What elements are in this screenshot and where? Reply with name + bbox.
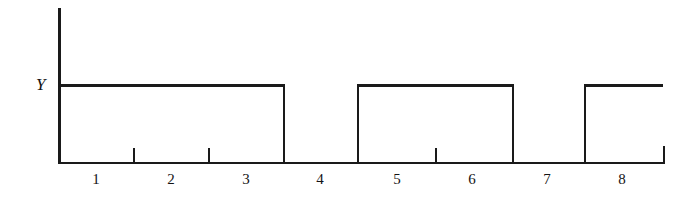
x-tick-label-1: 1 — [84, 170, 108, 188]
figure-container: Y 1 2 3 4 5 6 7 8 — [0, 0, 699, 200]
pulse-segment-3 — [585, 86, 663, 164]
x-tick-label-6: 6 — [460, 170, 484, 188]
x-tick-label-4: 4 — [308, 170, 332, 188]
x-tick-label-8: 8 — [610, 170, 634, 188]
y-axis-level-label: Y — [36, 76, 45, 94]
x-tick-label-2: 2 — [159, 170, 183, 188]
pulse-segment-1 — [59, 86, 284, 164]
x-tick-label-3: 3 — [234, 170, 258, 188]
x-tick-label-7: 7 — [535, 170, 559, 188]
x-tick-label-5: 5 — [385, 170, 409, 188]
